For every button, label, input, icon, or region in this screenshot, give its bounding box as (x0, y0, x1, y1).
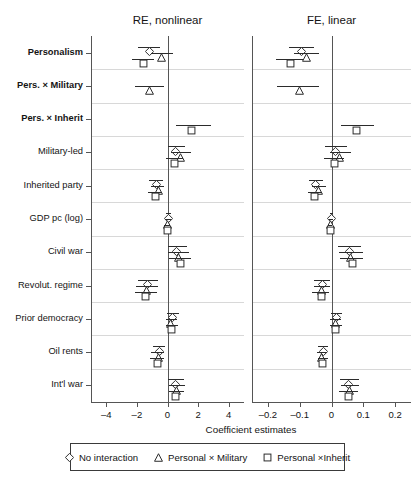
y-tick (86, 152, 91, 153)
point-marker-square (187, 121, 196, 130)
y-tick (86, 352, 91, 353)
legend-item-2: Personal × Military (154, 452, 247, 463)
y-axis-label-7: Civil war (0, 247, 83, 256)
x-tick-label: 0.2 (375, 409, 415, 420)
point-marker-diamond (145, 42, 154, 51)
y-tick (86, 186, 91, 187)
y-tick (86, 53, 91, 54)
y-tick (86, 119, 91, 120)
x-tick (168, 403, 169, 407)
y-axis-label-1: Personalism (0, 48, 83, 57)
y-tick (86, 385, 91, 386)
point-marker-square (330, 154, 339, 163)
point-marker-triangle (157, 48, 166, 57)
point-marker-square (153, 354, 162, 363)
point-marker-square (331, 320, 340, 329)
y-tick (86, 286, 91, 287)
point-marker-square (170, 154, 179, 163)
panel-title-1: RE, nonlinear (91, 14, 244, 26)
point-marker-square (167, 320, 176, 329)
point-marker-square (344, 387, 353, 396)
y-tick (86, 319, 91, 320)
y-tick (86, 219, 91, 220)
point-marker-square (163, 221, 172, 230)
point-marker-square (176, 254, 185, 263)
x-tick (363, 403, 364, 407)
y-axis-label-6: GDP pc (log) (0, 214, 83, 223)
legend-item-1: No interaction (65, 452, 138, 463)
coefficient-plot-figure: PersonalismPers. × MilitaryPers. × Inher… (0, 0, 415, 479)
point-marker-triangle (145, 81, 154, 90)
panel-title-2: FE, linear (252, 14, 411, 26)
x-tick (268, 403, 269, 407)
legend-marker-square (263, 453, 272, 462)
x-tick (137, 403, 138, 407)
x-tick (395, 403, 396, 407)
point-marker-square (286, 54, 295, 63)
y-axis-label-9: Prior democracy (0, 314, 83, 323)
x-tick (332, 403, 333, 407)
point-marker-square (326, 221, 335, 230)
legend-label: No interaction (79, 452, 138, 463)
y-axis-label-4: Military-led (0, 147, 83, 156)
y-axis-label-5: Inherited party (0, 181, 83, 190)
x-axis-title: Coefficient estimates (91, 424, 411, 435)
y-axis-label-8: Revolut. regime (0, 281, 83, 290)
y-axis-label-10: Oil rents (0, 347, 83, 356)
legend-label: Personal × Military (168, 452, 247, 463)
x-tick (229, 403, 230, 407)
x-tick-label: 4 (209, 409, 249, 420)
legend-label: Personal ×Inherit (277, 452, 350, 463)
y-axis-label-2: Pers. × Military (0, 81, 83, 90)
point-marker-square (139, 54, 148, 63)
legend-marker-diamond (65, 453, 74, 462)
y-axis-label-11: Int'l war (0, 380, 83, 389)
point-marker-square (171, 387, 180, 396)
x-tick (106, 403, 107, 407)
y-axis-label-3: Pers. × Inherit (0, 114, 83, 123)
point-marker-square (352, 121, 361, 130)
x-tick (300, 403, 301, 407)
y-axis-spine-2 (252, 36, 253, 402)
point-marker-triangle (295, 81, 304, 90)
point-marker-triangle (302, 48, 311, 57)
legend-item-3: Personal ×Inherit (263, 452, 350, 463)
legend-marker-triangle (154, 453, 163, 462)
y-tick (86, 252, 91, 253)
point-marker-square (317, 287, 326, 296)
x-tick (198, 403, 199, 407)
point-marker-square (318, 354, 327, 363)
y-axis-spine-1 (91, 36, 92, 402)
y-tick (86, 86, 91, 87)
point-marker-square (151, 187, 160, 196)
legend: No interactionPersonal × MilitaryPersona… (70, 443, 345, 471)
point-marker-square (141, 287, 150, 296)
point-marker-square (310, 187, 319, 196)
point-marker-square (348, 254, 357, 263)
